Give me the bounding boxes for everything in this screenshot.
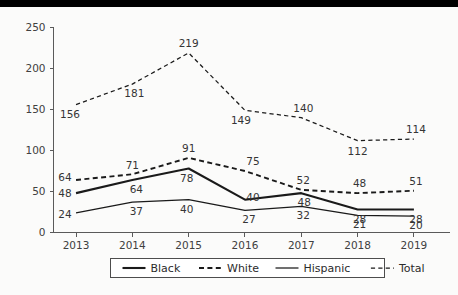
legend-label-total[interactable]: Total [398, 262, 425, 275]
chart-svg: 050100150200250 201320142015201620172018… [0, 0, 458, 295]
point-label-white: 71 [126, 159, 139, 171]
y-tick-label: 250 [25, 21, 45, 33]
series-lines [76, 53, 414, 216]
x-tick-label: 2013 [63, 239, 90, 251]
point-label-black: 78 [180, 172, 193, 184]
x-tick-label: 2018 [344, 239, 371, 251]
point-label-total: 140 [293, 102, 313, 114]
point-label-hispanic: 24 [58, 208, 72, 220]
legend-label-hispanic[interactable]: Hispanic [304, 262, 351, 275]
y-tick-label: 0 [39, 226, 46, 238]
x-axis: 2013201420152016201720182019 [54, 233, 451, 251]
x-tick-label: 2016 [232, 239, 259, 251]
legend-label-white[interactable]: White [227, 262, 259, 275]
x-tick-label: 2014 [119, 239, 146, 251]
point-label-hispanic: 40 [180, 203, 193, 215]
data-point-labels: 4864784048282864719175524851243740273221… [58, 37, 426, 231]
point-label-total: 114 [406, 123, 426, 135]
point-label-hispanic: 27 [242, 213, 255, 225]
x-tick-label: 2015 [175, 239, 202, 251]
point-label-white: 51 [409, 175, 422, 187]
point-label-white: 91 [182, 142, 195, 154]
point-label-hispanic: 32 [297, 209, 310, 221]
y-tick-label: 200 [25, 62, 45, 74]
chart-legend[interactable]: BlackWhiteHispanicTotal [111, 259, 425, 278]
point-label-white: 52 [297, 174, 310, 186]
legend-label-black[interactable]: Black [151, 262, 181, 275]
point-label-total: 112 [348, 145, 368, 157]
y-tick-label: 150 [25, 103, 45, 115]
point-label-black: 40 [246, 191, 259, 203]
point-label-hispanic: 37 [130, 205, 143, 217]
x-tick-label: 2017 [288, 239, 315, 251]
y-tick-label: 50 [32, 185, 45, 197]
line-chart: 050100150200250 201320142015201620172018… [0, 0, 458, 295]
point-label-total: 181 [124, 87, 144, 99]
point-label-black: 48 [298, 196, 311, 208]
point-label-white: 64 [58, 171, 72, 183]
point-label-black: 64 [130, 183, 144, 195]
point-label-total: 149 [231, 114, 251, 126]
y-axis: 050100150200250 [25, 21, 53, 238]
point-label-black: 48 [58, 187, 71, 199]
point-label-white: 75 [246, 155, 259, 167]
point-label-total: 219 [179, 37, 199, 49]
point-label-hispanic: 21 [353, 218, 366, 230]
x-tick-label: 2019 [401, 239, 428, 251]
chart-page: 050100150200250 201320142015201620172018… [0, 0, 458, 295]
y-tick-label: 100 [25, 144, 45, 156]
point-label-total: 156 [60, 108, 80, 120]
point-label-hispanic: 20 [409, 219, 422, 231]
point-label-white: 48 [353, 177, 366, 189]
